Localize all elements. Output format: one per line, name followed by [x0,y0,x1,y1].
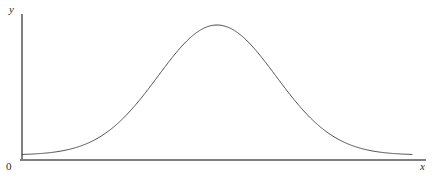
gaussian-curve [22,25,412,154]
bell-curve-figure: y x 0 [0,0,437,179]
y-axis-label: y [9,4,14,15]
plot-area [0,0,437,179]
axes-group [20,14,426,161]
curve-group [22,25,412,154]
origin-label: 0 [6,161,12,172]
x-axis-label: x [420,161,425,172]
